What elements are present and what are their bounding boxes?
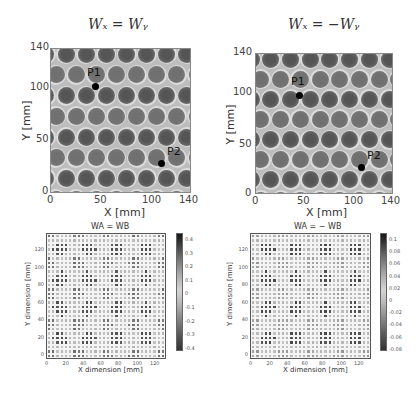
bl-colorbar <box>176 233 183 351</box>
dark-spot <box>118 48 135 63</box>
heatmap-cell <box>161 354 165 358</box>
heatmap-cell <box>366 354 370 358</box>
tl-ylabel: Y [mm] <box>20 100 33 140</box>
tr-xlabel: X [mm] <box>306 206 347 219</box>
tr-ytick: 100 <box>233 86 252 97</box>
tr-xtick: 50 <box>297 195 310 206</box>
point-p2-label: P2 <box>367 149 381 162</box>
br-xtick: 120 <box>354 360 364 366</box>
point-p1-marker <box>92 83 99 90</box>
dark-spot <box>302 91 319 108</box>
br-ctick: -0.06 <box>389 334 402 340</box>
point-p1-label: P1 <box>291 75 305 88</box>
dark-spot <box>98 48 115 63</box>
dark-spot <box>255 53 260 68</box>
dark-spot <box>58 170 75 187</box>
dark-spot <box>68 108 85 125</box>
bl-ytick: 0 <box>32 351 44 357</box>
br-ctick: 0.02 <box>389 285 400 291</box>
light-ring <box>187 189 191 193</box>
br-xtick: 20 <box>267 360 273 366</box>
dark-spot <box>78 170 95 187</box>
dark-spot <box>178 129 191 146</box>
br-xlabel: X dimension [mm] <box>283 366 348 374</box>
bl-xtick: 0 <box>45 360 48 366</box>
tr-xtick: 0 <box>252 195 258 206</box>
dark-spot <box>381 53 393 68</box>
br-ytick: 60 <box>236 299 248 305</box>
bl-ctick: 0.3 <box>185 250 193 256</box>
br-heatmap <box>250 233 371 359</box>
dark-spot <box>262 91 279 108</box>
dark-spot <box>341 91 358 108</box>
dark-spot <box>361 131 378 148</box>
light-ring <box>389 190 393 194</box>
tl-ytick: 140 <box>30 41 49 52</box>
bl-ytick: 120 <box>32 246 44 252</box>
dark-spot <box>272 111 289 128</box>
br-ctick: -0.08 <box>389 346 402 352</box>
br-ytick: 0 <box>236 351 248 357</box>
bl-ctick: -0.3 <box>185 331 195 337</box>
bl-ytick: 80 <box>32 281 44 287</box>
dark-spot <box>302 53 319 68</box>
tl-xtick: 0 <box>47 194 53 205</box>
br-ylabel: Y dimension [mm] <box>226 262 234 326</box>
tr-ytick: 0 <box>245 187 251 198</box>
dark-spot <box>118 87 135 104</box>
br-title: WA = − WB <box>294 222 341 231</box>
bl-xlabel: X dimension [mm] <box>78 366 143 374</box>
dark-spot <box>118 170 135 187</box>
tr-xtick: 140 <box>381 195 400 206</box>
dark-spot <box>148 108 165 125</box>
br-ytick: 80 <box>236 281 248 287</box>
tr-plot-area: P1P2 <box>255 53 393 194</box>
point-p2-marker <box>358 164 365 171</box>
bl-ytick: 40 <box>32 316 44 322</box>
dark-spot <box>312 71 329 88</box>
tr-title: Wₓ = −Wᵧ <box>288 16 359 32</box>
dark-spot <box>302 131 319 148</box>
tl-ytick: 50 <box>36 133 49 144</box>
dark-spot <box>98 170 115 187</box>
br-ctick: -0.02 <box>389 309 402 315</box>
bl-xtick: 20 <box>63 360 69 366</box>
dark-spot <box>351 71 368 88</box>
point-p1-label: P1 <box>87 66 101 79</box>
dark-spot <box>292 111 309 128</box>
bl-ctick: 0.2 <box>185 263 193 269</box>
bl-ylabel: Y dimension [mm] <box>24 262 32 326</box>
br-ytick: 120 <box>236 246 248 252</box>
bl-xtick: 120 <box>150 360 160 366</box>
tl-xtick: 140 <box>179 194 198 205</box>
br-ctick: -0.04 <box>389 321 402 327</box>
br-xtick: 0 <box>249 360 252 366</box>
bl-ytick: 100 <box>32 264 44 270</box>
dark-spot <box>282 53 299 68</box>
dark-spot <box>178 170 191 187</box>
dark-spot <box>108 108 125 125</box>
dark-spot <box>158 129 175 146</box>
dark-spot <box>361 91 378 108</box>
dark-spot <box>50 108 65 125</box>
dark-spot <box>128 108 145 125</box>
dark-spot <box>272 71 289 88</box>
dark-spot <box>58 48 75 63</box>
br-ytick: 100 <box>236 264 248 270</box>
dark-spot <box>282 131 299 148</box>
dark-spot <box>302 171 319 188</box>
tl-xtick: 100 <box>142 194 161 205</box>
bl-ctick: 0 <box>185 290 188 296</box>
bl-title: WA = WB <box>91 222 129 231</box>
tl-xlabel: X [mm] <box>104 206 145 219</box>
dark-spot <box>78 129 95 146</box>
dark-spot <box>98 129 115 146</box>
bl-ctick: -0.2 <box>185 318 195 324</box>
br-ctick: 0.06 <box>389 260 400 266</box>
tl-ytick: 100 <box>30 81 49 92</box>
dark-spot <box>78 48 95 63</box>
dark-spot <box>88 149 105 166</box>
dark-spot <box>98 87 115 104</box>
bl-ctick: 0.1 <box>185 277 193 283</box>
dark-spot <box>361 53 378 68</box>
